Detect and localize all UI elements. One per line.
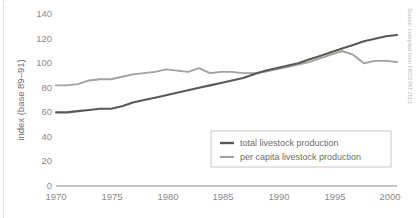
series-lines [56,35,397,112]
chart-canvas: 140 120 100 80 60 40 20 0 index (base 89… [0,0,418,218]
y-tick-0: 0 [47,180,52,191]
x-tick-1995: 1995 [324,191,345,202]
y-axis-tick-labels: 140 120 100 80 60 40 20 0 [36,8,52,191]
source-note: Source: compiled from FAOSTAT 2001 [407,8,413,104]
y-tick-80: 80 [41,82,52,93]
chart-legend: total livestock production per capita li… [211,131,391,167]
livestock-production-chart-figure: 140 120 100 80 60 40 20 0 index (base 89… [0,0,418,218]
x-tick-2000: 2000 [379,191,400,202]
y-axis-title: index (base 89–91) [15,59,26,140]
x-axis-tick-labels: 1970 1975 1980 1985 1990 1995 2000 [45,191,400,202]
legend-label-per-capita-livestock-production: per capita livestock production [240,152,361,162]
legend-label-total-livestock-production: total livestock production [240,138,339,148]
series-line-per-capita-livestock-production [56,51,397,85]
x-tick-1980: 1980 [157,191,178,202]
y-tick-60: 60 [41,106,52,117]
y-tick-40: 40 [41,131,52,142]
x-tick-1990: 1990 [268,191,289,202]
y-tick-140: 140 [36,8,52,19]
x-tick-1970: 1970 [45,191,66,202]
series-line-total-livestock-production [56,35,397,112]
x-tick-1985: 1985 [212,191,233,202]
y-tick-100: 100 [36,57,52,68]
y-tick-120: 120 [36,33,52,44]
x-tick-1975: 1975 [101,191,122,202]
y-tick-20: 20 [41,155,52,166]
page-margin-rule [3,0,4,218]
